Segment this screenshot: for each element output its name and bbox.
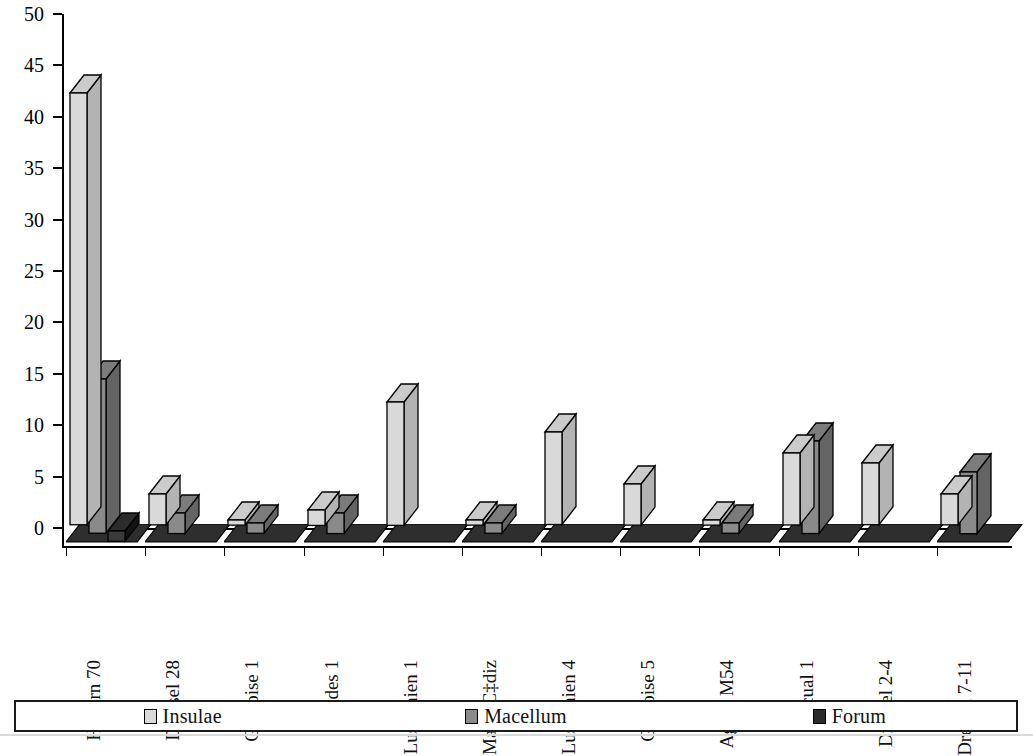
legend-swatch-forum [813,709,826,724]
y-axis-tick [53,527,62,529]
y-axis-tick [53,476,62,478]
y-axis-tick-label: 5 [0,467,44,487]
y-axis-tick [53,219,62,221]
bar-group [141,14,220,546]
bar-group [616,14,695,546]
x-axis-tick [224,546,225,556]
bar-groups [62,14,1012,546]
bar-group [933,14,1012,546]
legend-item-macellum[interactable]: Macellum [349,706,682,726]
y-axis-tick [53,321,62,323]
bar[interactable] [228,523,245,528]
bar-group [537,14,616,546]
x-axis-tick [304,546,305,556]
x-axis-tick [858,546,859,556]
bar-group [379,14,458,546]
bar[interactable] [149,497,166,528]
y-axis-tick-label: 15 [0,364,44,384]
x-axis-labels: Haltern 70Dressel 28Gauloise 1Rhodes 1Lu… [62,556,1012,666]
x-axis-tick [779,546,780,556]
bottom-rule [0,734,1033,736]
bar-group [695,14,774,546]
y-axis-tick [53,167,62,169]
x-axis-tick [66,546,67,556]
legend-label-forum: Forum [832,706,886,726]
y-axis-tick-label: 30 [0,210,44,230]
bar[interactable] [862,466,879,528]
x-axis-tick [541,546,542,556]
x-axis-tick [462,546,463,556]
y-axis-tick-label: 25 [0,261,44,281]
bar-group [458,14,537,546]
x-axis-tick [699,546,700,556]
y-axis-tick-label: 10 [0,415,44,435]
bar[interactable] [70,96,87,528]
bar-group [775,14,854,546]
y-axis-tick-label: 50 [0,4,44,24]
bar[interactable] [387,405,404,528]
y-axis-tick-label: 40 [0,107,44,127]
bar-group [62,14,141,546]
y-axis-tick [53,13,62,15]
y-axis-tick [53,373,62,375]
bar[interactable] [624,487,641,528]
x-axis-baseline [62,546,1012,548]
legend-label-macellum: Macellum [484,706,567,726]
y-axis-tick-label: 20 [0,312,44,332]
bar[interactable] [703,523,720,528]
x-axis-tick [937,546,938,556]
bar[interactable] [308,513,325,528]
bar[interactable] [783,456,800,528]
bar-group [854,14,933,546]
bar[interactable] [941,497,958,528]
bar-group [300,14,379,546]
x-axis-tick [383,546,384,556]
chart-legend: Insulae Macellum Forum [14,700,1018,732]
bar[interactable] [466,523,483,528]
y-axis-tick-label: 0 [0,518,44,538]
y-axis-tick [53,116,62,118]
legend-swatch-macellum [465,709,478,724]
y-axis-tick [53,64,62,66]
y-axis-tick-label: 45 [0,55,44,75]
x-axis-tick [145,546,146,556]
bar-group [220,14,299,546]
bar[interactable] [545,435,562,528]
legend-item-forum[interactable]: Forum [683,706,1016,726]
plot-area [62,14,1012,546]
legend-swatch-insulae [144,709,157,724]
x-axis-tick [620,546,621,556]
y-axis-tick [53,270,62,272]
y-axis-tick-label: 35 [0,158,44,178]
legend-item-insulae[interactable]: Insulae [16,706,349,726]
legend-label-insulae: Insulae [163,706,222,726]
y-axis-tick [53,424,62,426]
